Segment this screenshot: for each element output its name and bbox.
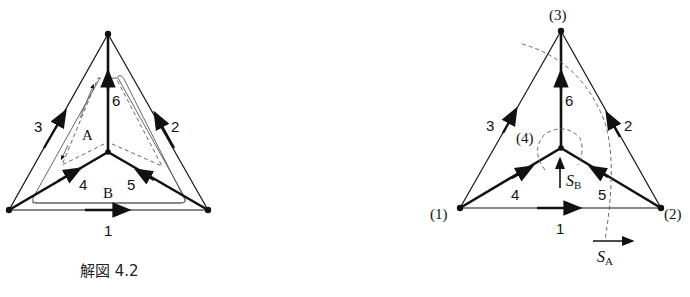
cutset-label-sb: SB (566, 172, 581, 191)
edge-5-arrow (596, 170, 608, 177)
left-edge-label-6: 6 (112, 92, 120, 109)
left-edge-label-4: 4 (79, 176, 87, 193)
figure-caption: 解図 4.2 (80, 262, 139, 280)
left-vertex-center (105, 149, 111, 155)
loop-label-a: A (82, 127, 93, 143)
right-edge-label-5: 5 (598, 186, 606, 203)
left-vertex-bottom-left (6, 207, 12, 213)
edge-5 (108, 152, 208, 210)
right-edge-label-6: 6 (565, 92, 573, 109)
edge-4-arrow (512, 170, 526, 178)
node-4 (558, 145, 564, 151)
node-label-2: (2) (664, 206, 682, 223)
edge-2 (108, 34, 208, 210)
edge-2-arrow (610, 119, 620, 137)
left-vertex-bottom-right (205, 207, 211, 213)
right-edge-label-4: 4 (511, 186, 519, 203)
cutset-sa-dashed (522, 44, 611, 240)
cutset-label-sa: SA (597, 248, 613, 267)
left-edge-label-1: 1 (104, 222, 112, 239)
left-diagram: 1 2 3 4 5 6 A B (6, 31, 211, 239)
left-edge-label-5: 5 (127, 176, 135, 193)
loop-label-b: B (103, 185, 113, 201)
left-edge-label-3: 3 (34, 118, 42, 135)
right-edge-label-2: 2 (624, 117, 632, 134)
left-edge-label-2: 2 (171, 118, 179, 135)
node-1 (457, 205, 463, 211)
loop-a-arrow-down (62, 145, 68, 158)
edge-3-arrow (503, 115, 513, 133)
node-label-4: (4) (516, 130, 534, 147)
edge-4-arrow (58, 172, 74, 181)
right-edge-label-3: 3 (486, 117, 494, 134)
node-label-3: (3) (549, 7, 567, 24)
figure-canvas: 1 2 3 4 5 6 A B 解図 4.2 (0, 0, 690, 297)
right-diagram: (3) (1) (2) (4) 1 2 3 4 5 6 SB SA (430, 7, 682, 267)
node-label-1: (1) (430, 206, 448, 223)
left-vertex-top (105, 31, 111, 37)
right-edge-label-1: 1 (556, 220, 564, 237)
node-3 (558, 28, 564, 34)
loop-a-arrow-up (80, 86, 93, 118)
loop-a-dashed (62, 78, 104, 165)
